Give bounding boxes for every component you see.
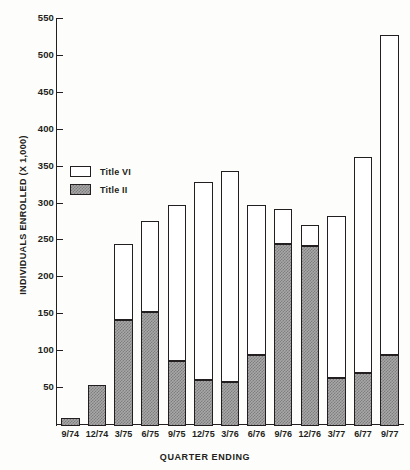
- bar-segment-title-ii: [354, 373, 373, 426]
- x-axis-title: QUARTER ENDING: [0, 452, 410, 462]
- bar-12-75: [194, 182, 213, 426]
- bar-segment-title-vi: [168, 205, 187, 361]
- bar-6-76: [247, 205, 266, 426]
- bar-6-77: [354, 157, 373, 426]
- bar-segment-title-vi: [274, 209, 293, 244]
- bar-segment-title-vi: [221, 171, 240, 382]
- y-tick-label: 400: [14, 124, 54, 134]
- legend-item-title-ii: Title II: [70, 182, 131, 197]
- bar-3-76: [221, 171, 240, 426]
- bar-segment-title-vi: [247, 205, 266, 356]
- bar-segment-title-ii: [194, 380, 213, 427]
- bar-segment-title-ii: [221, 382, 240, 426]
- chart-figure: INDIVIDUALS ENROLLED (X 1,000) QUARTER E…: [0, 0, 410, 470]
- legend-item-title-vi: Title VI: [70, 164, 131, 179]
- x-tick-label: 9/77: [372, 430, 408, 439]
- legend-label-title-ii: Title II: [100, 185, 127, 195]
- bar-12-74: [88, 385, 107, 426]
- legend-swatch-title-vi: [70, 166, 91, 177]
- y-tick-label: 200: [14, 271, 54, 281]
- y-tick-label: 100: [14, 345, 54, 355]
- y-tick-label: 350: [14, 161, 54, 171]
- bar-segment-title-vi: [327, 216, 346, 378]
- legend-label-title-vi: Title VI: [100, 167, 131, 177]
- y-axis-title: INDIVIDUALS ENROLLED (X 1,000): [18, 100, 28, 330]
- bar-segment-title-vi: [114, 244, 133, 320]
- bar-segment-title-ii: [380, 355, 399, 426]
- bar-9-74: [61, 418, 80, 426]
- bar-segment-title-vi: [141, 221, 160, 313]
- y-tick-label: 150: [14, 308, 54, 318]
- y-tick-label: 450: [14, 87, 54, 97]
- bar-segment-title-ii: [301, 246, 320, 426]
- bar-segment-title-vi: [194, 182, 213, 380]
- bar-6-75: [141, 221, 160, 426]
- bar-segment-title-ii: [327, 378, 346, 426]
- legend: Title VI Title II: [70, 164, 131, 200]
- bar-segment-title-ii: [61, 418, 80, 426]
- bar-segment-title-ii: [114, 320, 133, 426]
- plot-area: [57, 18, 403, 426]
- y-tick-label: 300: [14, 198, 54, 208]
- bar-3-77: [327, 216, 346, 426]
- y-tick-label: 550: [14, 13, 54, 23]
- legend-swatch-title-ii: [70, 184, 91, 195]
- bar-segment-title-ii: [88, 385, 107, 426]
- bar-9-77: [380, 35, 399, 426]
- y-tick-label: 250: [14, 234, 54, 244]
- bar-segment-title-ii: [141, 312, 160, 426]
- bar-12-76: [301, 225, 320, 426]
- y-tick-label: 50: [14, 382, 54, 392]
- bar-9-76: [274, 209, 293, 426]
- bar-segment-title-vi: [301, 225, 320, 246]
- bar-9-75: [168, 205, 187, 426]
- bar-segment-title-ii: [168, 361, 187, 426]
- bar-3-75: [114, 244, 133, 426]
- bar-segment-title-ii: [274, 244, 293, 426]
- bar-segment-title-vi: [380, 35, 399, 355]
- bar-segment-title-vi: [354, 157, 373, 373]
- y-tick-label: 500: [14, 50, 54, 60]
- bar-segment-title-ii: [247, 355, 266, 426]
